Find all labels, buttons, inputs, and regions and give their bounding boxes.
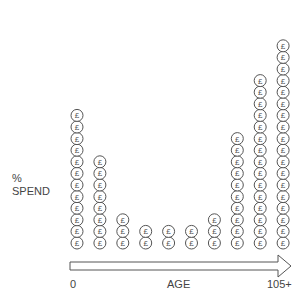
svg-text:£: £ [281, 42, 286, 51]
pound-coin-icon: £ [254, 75, 266, 87]
coin-column-3: £££ [117, 214, 129, 249]
pound-coin-icon: £ [140, 225, 152, 237]
svg-text:£: £ [121, 239, 126, 248]
svg-text:£: £ [235, 181, 240, 190]
pound-coin-icon: £ [163, 237, 175, 249]
svg-text:£: £ [281, 111, 286, 120]
pound-coin-icon: £ [94, 202, 106, 214]
pound-coin-icon: £ [117, 225, 129, 237]
svg-text:£: £ [75, 169, 80, 178]
svg-text:£: £ [98, 216, 103, 225]
pound-coin-icon: £ [277, 156, 289, 168]
svg-text:£: £ [98, 227, 103, 236]
pound-coin-icon: £ [71, 214, 83, 226]
pound-coin-icon: £ [277, 237, 289, 249]
svg-text:£: £ [75, 135, 80, 144]
pound-coin-icon: £ [94, 179, 106, 191]
pound-coin-icon: £ [277, 121, 289, 133]
pound-coin-icon: £ [71, 133, 83, 145]
pound-coin-icon: £ [231, 133, 243, 145]
svg-text:£: £ [258, 111, 263, 120]
pound-coin-icon: £ [254, 214, 266, 226]
pound-coin-icon: £ [277, 167, 289, 179]
svg-text:£: £ [235, 227, 240, 236]
svg-text:£: £ [258, 181, 263, 190]
svg-text:£: £ [281, 53, 286, 62]
svg-text:£: £ [98, 169, 103, 178]
pound-coin-icon: £ [94, 191, 106, 203]
pound-coin-icon: £ [71, 225, 83, 237]
svg-text:£: £ [212, 239, 217, 248]
pound-coin-icon: £ [277, 40, 289, 52]
svg-text:£: £ [281, 227, 286, 236]
svg-text:£: £ [258, 227, 263, 236]
svg-text:£: £ [281, 135, 286, 144]
pound-coin-icon: £ [254, 225, 266, 237]
svg-text:£: £ [75, 146, 80, 155]
pound-coin-icon: £ [277, 225, 289, 237]
pound-coin-icon: £ [71, 191, 83, 203]
svg-text:£: £ [281, 158, 286, 167]
pound-coin-icon: £ [254, 133, 266, 145]
pound-coin-icon: £ [231, 144, 243, 156]
coin-column-7: £££ [208, 214, 220, 249]
x-axis-title: AGE [167, 278, 190, 291]
pound-coin-icon: £ [277, 75, 289, 87]
svg-text:£: £ [75, 204, 80, 213]
pound-coin-icon: £ [231, 191, 243, 203]
svg-text:£: £ [258, 135, 263, 144]
svg-text:£: £ [281, 146, 286, 155]
svg-text:£: £ [98, 239, 103, 248]
svg-text:£: £ [235, 158, 240, 167]
x-axis-end-label: 105+ [267, 278, 292, 291]
pound-coin-icon: £ [71, 202, 83, 214]
pound-coin-icon: £ [254, 156, 266, 168]
svg-text:£: £ [75, 227, 80, 236]
pound-coin-icon: £ [117, 237, 129, 249]
svg-text:£: £ [98, 193, 103, 202]
coin-column-6: ££ [186, 225, 198, 249]
coin-column-8: ££££££££££ [231, 133, 243, 249]
svg-text:£: £ [258, 204, 263, 213]
pound-coin-icon: £ [277, 202, 289, 214]
svg-text:£: £ [281, 181, 286, 190]
pound-coin-icon: £ [254, 167, 266, 179]
svg-text:£: £ [212, 216, 217, 225]
coin-column-2: ££££££££ [94, 156, 106, 249]
pound-coin-icon: £ [277, 109, 289, 121]
coin-columns: ££££££££££££££££££££££££££££££££££££££££… [71, 40, 289, 249]
pound-coin-icon: £ [277, 214, 289, 226]
pound-coin-icon: £ [94, 237, 106, 249]
svg-text:£: £ [258, 169, 263, 178]
svg-text:£: £ [75, 216, 80, 225]
pound-coin-icon: £ [208, 225, 220, 237]
svg-text:£: £ [258, 193, 263, 202]
pound-coin-icon: £ [254, 109, 266, 121]
svg-text:£: £ [281, 216, 286, 225]
pound-coin-icon: £ [71, 179, 83, 191]
svg-text:£: £ [281, 123, 286, 132]
svg-text:£: £ [75, 193, 80, 202]
svg-text:£: £ [258, 216, 263, 225]
svg-text:£: £ [281, 239, 286, 248]
svg-text:£: £ [281, 65, 286, 74]
pound-coin-icon: £ [254, 202, 266, 214]
svg-text:£: £ [258, 146, 263, 155]
pound-coin-icon: £ [231, 179, 243, 191]
pound-coin-icon: £ [94, 225, 106, 237]
svg-text:£: £ [189, 239, 194, 248]
svg-text:£: £ [281, 77, 286, 86]
pound-coin-icon: £ [254, 144, 266, 156]
svg-text:£: £ [235, 146, 240, 155]
coin-column-9: £££££££££££££££ [254, 75, 266, 249]
pound-coin-icon: £ [94, 156, 106, 168]
svg-text:£: £ [235, 204, 240, 213]
pound-coin-icon: £ [140, 237, 152, 249]
svg-text:£: £ [235, 216, 240, 225]
pound-coin-icon: £ [186, 237, 198, 249]
coin-column-5: ££ [163, 225, 175, 249]
svg-text:£: £ [121, 227, 126, 236]
pound-coin-icon: £ [117, 214, 129, 226]
svg-text:£: £ [75, 239, 80, 248]
pound-coin-icon: £ [231, 167, 243, 179]
